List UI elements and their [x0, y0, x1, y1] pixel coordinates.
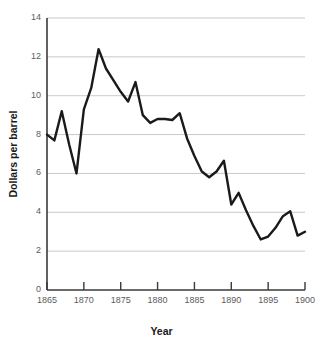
x-tick-label: 1895: [250, 296, 286, 305]
x-tick-label: 1900: [287, 296, 323, 305]
x-axis-title: Year: [0, 325, 323, 337]
y-tick-label: 0: [14, 285, 41, 294]
y-tick-label: 2: [14, 246, 41, 255]
x-tick-label: 1880: [140, 296, 176, 305]
line-chart: 02468101214 1865187018751880188518901895…: [0, 0, 323, 346]
y-tick-label: 14: [14, 13, 41, 22]
gridlines: [47, 18, 305, 251]
y-tick-label: 12: [14, 52, 41, 61]
x-tick-label: 1870: [66, 296, 102, 305]
x-tick-label: 1885: [176, 296, 212, 305]
x-tick-label: 1865: [29, 296, 65, 305]
x-axis-ticks: [47, 282, 305, 290]
x-tick-label: 1890: [213, 296, 249, 305]
x-tick-label: 1875: [103, 296, 139, 305]
y-axis-title: Dollars per barrel: [7, 94, 19, 214]
data-series-line: [47, 49, 305, 239]
